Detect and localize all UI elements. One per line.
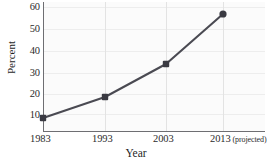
y-tick-label: 30 — [14, 68, 40, 79]
y-axis-line — [43, 2, 44, 131]
x-axis-title: Year — [0, 148, 272, 160]
gridline-horizontal — [43, 7, 265, 8]
y-tick-label: 60 — [14, 2, 40, 13]
gridline-horizontal — [43, 51, 265, 52]
y-tick-label: 20 — [14, 89, 40, 100]
x-tick-label-year: 1993 — [92, 133, 113, 144]
y-tick-label: 50 — [14, 24, 40, 35]
y-axis-title: Percent — [6, 28, 17, 88]
plot-area — [43, 2, 265, 131]
x-tick-label: 1983 — [30, 134, 51, 145]
y-tick-label: 10 — [14, 110, 40, 121]
x-tick-label-year: 1983 — [30, 133, 51, 144]
line-chart: 60 50 40 30 20 10 1983 1993 2003 2013 (p… — [0, 0, 272, 163]
gridline-vertical — [223, 2, 224, 131]
gridline-vertical — [105, 2, 106, 131]
x-axis-line — [43, 131, 265, 132]
x-tick-label-year: 2013 — [210, 133, 231, 144]
y-tick-label: 40 — [14, 46, 40, 57]
gridline-horizontal — [43, 29, 265, 30]
x-tick-label-year: 2003 — [153, 133, 174, 144]
x-tick-label: 2003 — [153, 134, 174, 145]
x-tick-label: 1993 — [92, 134, 113, 145]
x-tick-label-note: (projected) — [231, 135, 267, 144]
gridline-horizontal — [43, 73, 265, 74]
x-tick-label: 2013 (projected) — [210, 134, 267, 145]
gridline-vertical — [166, 2, 167, 131]
gridline-horizontal — [43, 114, 265, 115]
gridline-horizontal — [43, 94, 265, 95]
